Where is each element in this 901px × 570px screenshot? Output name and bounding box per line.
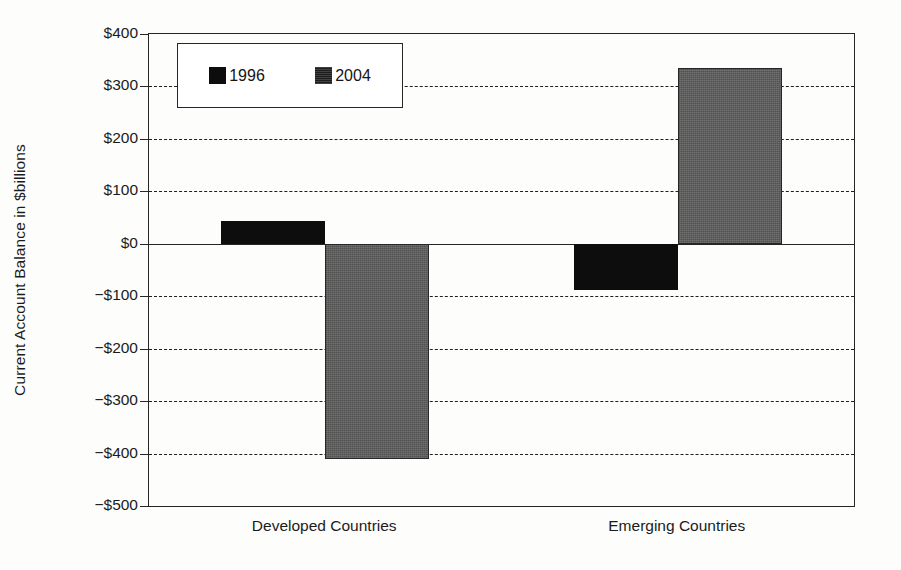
y-axis-tick-label: $0	[121, 234, 138, 252]
y-axis-tick-mark	[140, 401, 149, 402]
gridline	[149, 349, 854, 350]
chart-figure: Current Account Balance in $billions $40…	[0, 0, 901, 570]
bar-1996-developed-countries	[221, 221, 325, 244]
x-axis-label-0: Developed Countries	[252, 517, 397, 535]
x-axis-label-1: Emerging Countries	[608, 517, 745, 535]
legend-entry-1996: 1996	[209, 67, 265, 84]
y-axis-tick-label: −$400	[94, 444, 138, 462]
y-axis-tick-label: $100	[104, 181, 138, 199]
legend-label-1996: 1996	[229, 68, 265, 84]
y-axis-tick-label: −$300	[94, 391, 138, 409]
legend-swatch-2004-icon	[315, 67, 332, 84]
legend-label-2004: 2004	[335, 68, 371, 84]
y-axis-tick-mark	[140, 296, 149, 297]
chart-legend: 1996 2004	[177, 43, 403, 108]
y-axis-tick-mark	[140, 34, 149, 35]
y-axis-title-container: Current Account Balance in $billions	[0, 0, 40, 540]
y-axis-tick-label: −$200	[94, 339, 138, 357]
bar-2004-emerging-countries	[678, 68, 782, 244]
bar-2004-developed-countries	[325, 244, 429, 459]
y-axis-tick-mark	[140, 349, 149, 350]
y-axis-title: Current Account Balance in $billions	[11, 144, 29, 396]
y-axis-tick-label: $200	[104, 129, 138, 147]
gridline	[149, 401, 854, 402]
x-axis-tick-labels: Developed CountriesEmerging Countries	[148, 517, 855, 547]
gridline	[149, 454, 854, 455]
legend-swatch-1996-icon	[209, 67, 226, 84]
y-axis-tick-mark	[140, 244, 149, 245]
y-axis-tick-label: $300	[104, 76, 138, 94]
y-axis-tick-labels: $400$300$200$100$0−$100−$200−$300−$400−$…	[48, 33, 138, 507]
legend-entry-2004: 2004	[315, 67, 371, 84]
y-axis-tick-mark	[140, 454, 149, 455]
y-axis-tick-label: $400	[104, 24, 138, 42]
y-axis-tick-mark	[140, 506, 149, 507]
gridline	[149, 296, 854, 297]
y-axis-tick-label: −$500	[94, 496, 138, 514]
bar-1996-emerging-countries	[574, 244, 678, 291]
zero-axis-line	[149, 244, 854, 245]
y-axis-tick-mark	[140, 139, 149, 140]
y-axis-tick-mark	[140, 191, 149, 192]
y-axis-tick-mark	[140, 86, 149, 87]
y-axis-tick-label: −$100	[94, 286, 138, 304]
